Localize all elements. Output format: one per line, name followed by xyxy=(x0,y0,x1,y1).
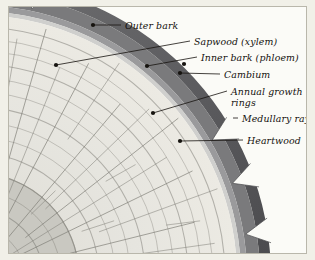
label-outer-bark: Outer bark xyxy=(125,20,178,31)
label-sapwood-xylem: Sapwood (xylem) xyxy=(194,36,277,47)
figure-plate: Outer barkSapwood (xylem)Inner bark (phl… xyxy=(8,6,307,254)
dot-inner-bark-secondary xyxy=(182,62,186,66)
leader-dot-cambium xyxy=(178,71,182,75)
label-inner-bark-phloem: Inner bark (phloem) xyxy=(201,52,299,63)
label-heartwood: Heartwood xyxy=(247,135,301,146)
label-cambium: Cambium xyxy=(224,69,270,80)
leader-dot-sapwood-xylem xyxy=(54,63,58,67)
tree-trunk-diagram: Outer barkSapwood (xylem)Inner bark (phl… xyxy=(0,0,315,260)
leader-dot-inner-bark-phloem xyxy=(145,64,149,68)
leader-dot-heartwood xyxy=(178,139,182,143)
label-medullary-rays: Medullary rays xyxy=(242,113,307,124)
leader-dot-annual-growth-rings xyxy=(151,111,155,115)
label-annual-growth-rings: Annual growth rings xyxy=(231,86,305,108)
leader-dot-outer-bark xyxy=(91,23,95,27)
